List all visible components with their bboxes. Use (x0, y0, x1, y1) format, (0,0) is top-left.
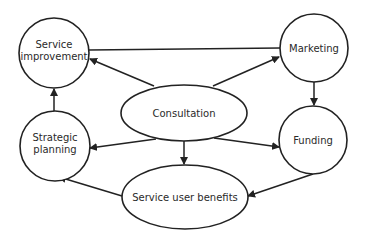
node-consultation: Consultation (121, 85, 247, 141)
node-label: Strategic (32, 132, 77, 143)
edge-consultation-to-strategic-planning (90, 139, 156, 148)
node-label: Funding (293, 135, 333, 146)
node-label: improvement (20, 51, 87, 62)
node-label: Marketing (289, 43, 339, 54)
diagram-canvas: Service improvement Marketing Consultati… (0, 0, 366, 240)
edge-consultation-to-funding (214, 138, 279, 147)
node-funding: Funding (279, 106, 347, 174)
edge-consultation-to-marketing (213, 57, 279, 86)
edge-funding-to-service-user-benefits (248, 174, 313, 196)
node-service-improvement: Service improvement (19, 18, 89, 88)
edge-consultation-to-service-improvement (90, 59, 154, 86)
node-service-user-benefits: Service user benefits (122, 165, 248, 229)
node-label: Service (36, 39, 73, 50)
node-strategic-planning: Strategic planning (20, 111, 90, 181)
node-label: planning (33, 144, 76, 155)
edge-service-improvement-marketing (89, 48, 280, 50)
edge-service-user-benefits-to-strategic-planning (59, 177, 122, 196)
node-label: Service user benefits (132, 192, 238, 203)
node-marketing: Marketing (280, 14, 348, 82)
node-label: Consultation (153, 108, 216, 119)
